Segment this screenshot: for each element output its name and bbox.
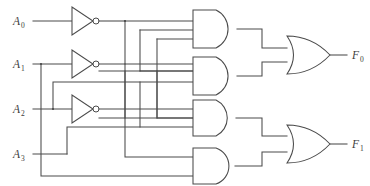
- wire-and1-out: [237, 29, 287, 48]
- input-labels: A 0 A 1 A 2 A 3: [12, 15, 25, 163]
- junction-a1: [40, 63, 42, 65]
- inverter-a0: [72, 7, 125, 35]
- and-gate-2: [193, 57, 287, 95]
- vertical-bus-lines: [99, 20, 193, 157]
- logic-circuit-diagram: A 0 A 1 A 2 A 3 F 0 F 1: [0, 0, 370, 186]
- bus-line-a0n: [125, 21, 193, 157]
- bus-line-3: [157, 39, 193, 118]
- input-label-a0-sub: 0: [21, 21, 25, 30]
- wire-a1-branch-bottom: [41, 64, 193, 176]
- output-labels: F 0 F 1: [351, 49, 364, 153]
- or-gate-f0: [287, 36, 347, 74]
- inverter-a1: [72, 50, 193, 78]
- input-label-a3: A: [12, 148, 21, 160]
- output-label-f0: F: [351, 49, 360, 61]
- and-gate-3: [193, 100, 287, 136]
- wire-a3-branch-up: [67, 127, 193, 154]
- input-label-a2: A: [12, 103, 21, 115]
- circuit-canvas: A 0 A 1 A 2 A 3 F 0 F 1: [0, 0, 370, 186]
- wire-and3-out: [236, 118, 287, 136]
- input-label-a3-sub: 3: [21, 154, 25, 163]
- inverter-a2: [72, 95, 193, 123]
- input-label-a1-sub: 1: [21, 64, 25, 73]
- junction-a0n: [124, 20, 126, 22]
- junction-a2: [52, 108, 54, 110]
- input-label-a1: A: [12, 58, 21, 70]
- input-fanout-branches: [40, 63, 193, 176]
- and-gate-4: [193, 148, 287, 184]
- input-label-a2-sub: 2: [21, 109, 25, 118]
- wire-and4-out: [235, 152, 287, 166]
- output-label-f1: F: [351, 138, 360, 150]
- wire-and2-out: [237, 62, 287, 76]
- output-label-f0-sub: 0: [360, 55, 364, 64]
- bus-line-2: [140, 30, 193, 71]
- input-label-a0: A: [12, 15, 21, 27]
- and-gate-1: [193, 10, 287, 48]
- output-label-f1-sub: 1: [360, 144, 364, 153]
- or-gate-f1: [287, 125, 347, 163]
